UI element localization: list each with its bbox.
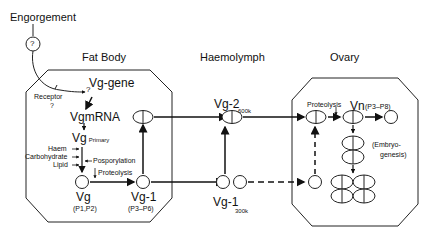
- vg1-circle-ovary: [309, 176, 322, 189]
- ovary-title: Ovary: [330, 52, 359, 63]
- vg1-label-haemolymph: Vg-1: [213, 196, 238, 208]
- haemolymph-title: Haemolymph: [200, 52, 265, 63]
- vg-gene-label: Vg-gene: [89, 77, 134, 89]
- receptor-question: ?: [50, 102, 54, 109]
- engorgement-label: Engorgement: [10, 12, 76, 23]
- vgmrna-label: VgmRNA: [70, 111, 120, 123]
- vg2-label-haemolymph: Vg-2: [214, 98, 239, 110]
- modifier-lipid: Lipid: [53, 161, 68, 168]
- vg-primary-label: VgPrimary: [72, 132, 109, 144]
- vn-label: Vn: [350, 100, 365, 112]
- modifier-haem: Haem: [48, 145, 67, 152]
- modifier-carbohydrate: Carbohydrate: [25, 153, 67, 160]
- vg1-label-fatbody: Vg-1: [131, 191, 156, 203]
- proteolysis-label-fatbody: Proteolysis: [98, 169, 132, 176]
- vn-sub-label: (P3–P8): [365, 103, 391, 110]
- embryogenesis-line2: genesis): [380, 151, 406, 158]
- proteolysis-label-ovary: Proteolysis: [307, 101, 341, 108]
- vg-circle: [76, 176, 89, 189]
- vg2-size: 600k: [238, 108, 251, 114]
- receptor-label: Receptor: [34, 93, 62, 100]
- unknown-symbol: ?: [30, 40, 34, 48]
- vg-sub-label: (P1,P2): [73, 205, 97, 212]
- vg-label: Vg: [76, 191, 91, 203]
- vg1-circle-haemolymph-a: [217, 176, 230, 189]
- vn-product-circle: [385, 111, 398, 124]
- embryogenesis-line1: (Embryo-: [372, 141, 401, 148]
- vg1-circle-fatbody: [137, 176, 150, 189]
- vg1-circle-haemolymph-b: [234, 176, 247, 189]
- vg1-size: 300k: [235, 208, 248, 214]
- vg1-sub-label-fatbody: (P3–P6): [128, 205, 154, 212]
- phosphorylation-label: Posporylation: [93, 157, 135, 164]
- fat-body-title: Fat Body: [82, 52, 126, 63]
